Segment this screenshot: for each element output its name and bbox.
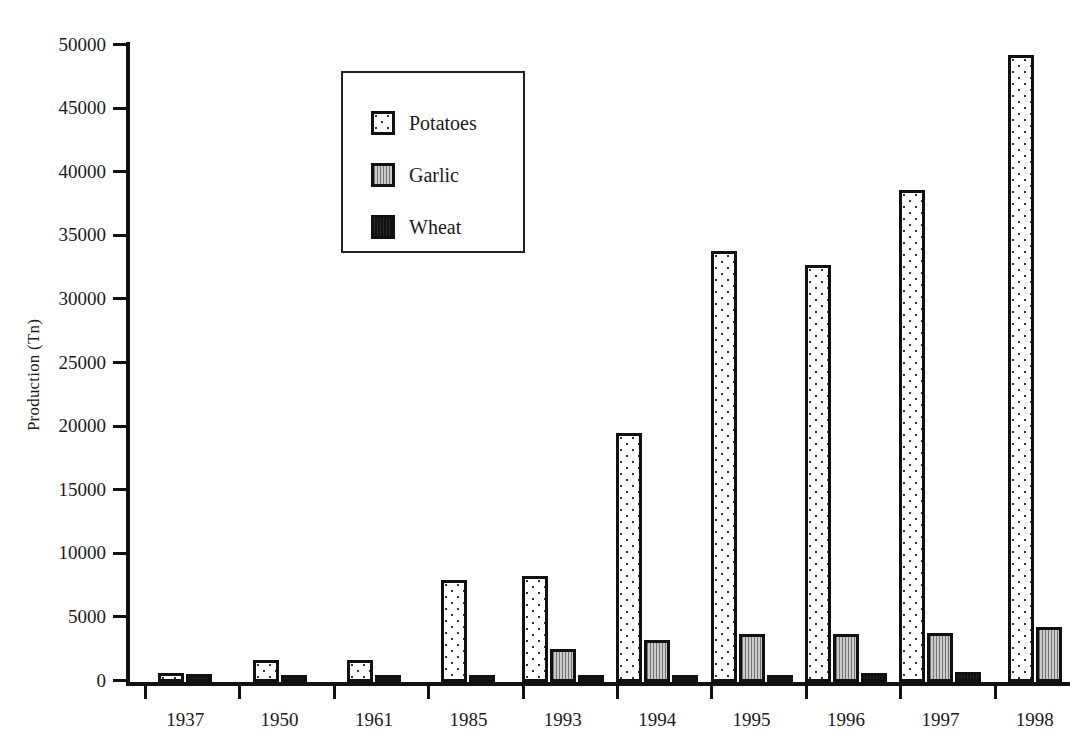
y-tick-label: 50000 <box>59 34 107 56</box>
bar-wheat-1961 <box>375 675 401 682</box>
legend-box: Potatoes Garlic Wheat <box>341 71 525 253</box>
bar-wheat-1995 <box>767 675 793 682</box>
x-tick <box>710 686 713 699</box>
bar-potatoes-1997 <box>899 190 925 682</box>
bar-potatoes-1937 <box>158 673 184 682</box>
bar-garlic-1996 <box>833 634 859 682</box>
bar-wheat-1937 <box>186 674 212 682</box>
legend-label-potatoes: Potatoes <box>409 112 477 135</box>
y-axis-line <box>126 42 130 686</box>
bar-potatoes-1995 <box>711 251 737 682</box>
bar-garlic-1994 <box>644 640 670 682</box>
bar-potatoes-1998 <box>1008 55 1034 682</box>
legend-item-garlic: Garlic <box>371 149 523 201</box>
bar-chart-figure: Production (Tn) 050001000015000200002500… <box>0 0 1081 750</box>
y-tick: 25000 <box>113 361 126 364</box>
bar-potatoes-1996 <box>805 265 831 682</box>
y-tick-label: 25000 <box>59 352 107 374</box>
legend-swatch-garlic-icon <box>371 163 395 187</box>
bar-potatoes-1994 <box>616 433 642 682</box>
y-tick: 30000 <box>113 297 126 300</box>
y-tick-label: 10000 <box>59 542 107 564</box>
y-axis-label: Production (Tn) <box>14 0 54 750</box>
bar-wheat-1950 <box>281 675 307 682</box>
x-tick-label: 1961 <box>355 709 393 731</box>
x-tick <box>238 686 241 699</box>
bar-wheat-1996 <box>861 673 887 682</box>
legend-swatch-potatoes-icon <box>371 111 395 135</box>
x-tick-label: 1996 <box>827 709 865 731</box>
x-tick-label: 1998 <box>1016 709 1054 731</box>
y-tick: 35000 <box>113 234 126 237</box>
bar-wheat-1985 <box>469 675 495 682</box>
bar-garlic-1995 <box>739 634 765 682</box>
y-tick-label: 45000 <box>59 97 107 119</box>
x-tick <box>616 686 619 699</box>
legend-label-garlic: Garlic <box>409 164 459 187</box>
x-tick-label: 1993 <box>544 709 582 731</box>
y-tick: 0 <box>113 679 126 682</box>
bar-garlic-1997 <box>927 633 953 682</box>
y-tick-label: 20000 <box>59 415 107 437</box>
bar-potatoes-1961 <box>347 660 373 682</box>
y-tick: 45000 <box>113 107 126 110</box>
bar-potatoes-1985 <box>441 580 467 682</box>
legend-swatch-wheat-icon <box>371 215 395 239</box>
x-tick <box>427 686 430 699</box>
x-tick-label: 1995 <box>733 709 771 731</box>
x-tick <box>333 686 336 699</box>
bar-potatoes-1950 <box>253 660 279 682</box>
x-tick-label: 1997 <box>921 709 959 731</box>
x-tick <box>899 686 902 699</box>
y-tick: 5000 <box>113 615 126 618</box>
x-axis-line <box>126 682 1070 686</box>
y-tick-label: 35000 <box>59 224 107 246</box>
y-tick: 50000 <box>113 43 126 46</box>
x-tick-label: 1985 <box>449 709 487 731</box>
bar-garlic-1993 <box>550 649 576 682</box>
bar-wheat-1994 <box>672 675 698 682</box>
x-tick <box>805 686 808 699</box>
bar-wheat-1993 <box>578 675 604 682</box>
y-tick-label: 0 <box>97 670 107 692</box>
y-tick: 40000 <box>113 170 126 173</box>
y-tick: 10000 <box>113 552 126 555</box>
x-tick-label: 1937 <box>166 709 204 731</box>
x-tick <box>522 686 525 699</box>
bar-wheat-1997 <box>955 672 981 682</box>
x-tick <box>144 686 147 699</box>
y-tick: 20000 <box>113 425 126 428</box>
y-tick-label: 30000 <box>59 288 107 310</box>
y-tick-label: 15000 <box>59 479 107 501</box>
y-axis-label-text: Production (Tn) <box>24 319 44 431</box>
legend-item-wheat: Wheat <box>371 201 523 253</box>
legend-label-wheat: Wheat <box>409 216 461 239</box>
plot-area: 0500010000150002000025000300003500040000… <box>126 46 1070 682</box>
x-tick-label: 1994 <box>638 709 676 731</box>
legend-item-potatoes: Potatoes <box>371 97 523 149</box>
y-tick: 15000 <box>113 488 126 491</box>
x-tick-label: 1950 <box>261 709 299 731</box>
bar-garlic-1998 <box>1036 627 1062 682</box>
bar-potatoes-1993 <box>522 576 548 682</box>
y-tick-label: 40000 <box>59 161 107 183</box>
x-tick <box>994 686 997 699</box>
y-tick-label: 5000 <box>68 606 106 628</box>
